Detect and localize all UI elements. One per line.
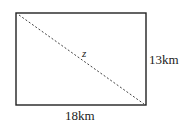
- width-label: 18km: [65, 109, 95, 122]
- diagonal-label: z: [82, 48, 86, 59]
- height-label: 13km: [149, 53, 179, 66]
- diagonal-line: [19, 15, 144, 104]
